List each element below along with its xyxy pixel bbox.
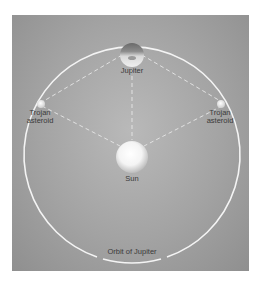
jupiter-icon	[120, 43, 144, 67]
trojan-right-label-line2: asteroid	[200, 117, 240, 125]
orbit-label: Orbit of Jupiter	[92, 248, 172, 256]
jupiter-label: Jupiter	[112, 67, 152, 75]
trojan-right-label: Trojan asteroid	[200, 109, 240, 125]
trojan-asteroid-left-icon	[37, 100, 45, 108]
trojan-left-label-line2: asteroid	[20, 117, 60, 125]
sun-icon	[116, 141, 148, 173]
sun-label: Sun	[112, 175, 152, 183]
trojan-left-label: Trojan asteroid	[20, 109, 60, 125]
trojan-asteroid-right-icon	[217, 100, 225, 108]
